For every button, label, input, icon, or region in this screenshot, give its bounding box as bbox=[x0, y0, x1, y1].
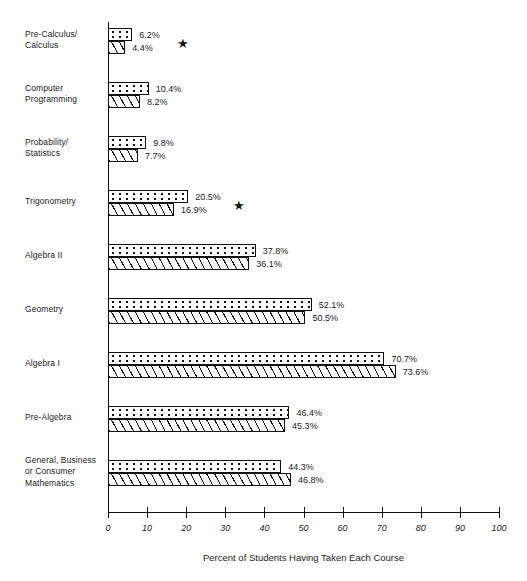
category-label: Algebra II bbox=[25, 250, 62, 262]
bar-value-label: 70.7% bbox=[391, 354, 417, 364]
bar-dotted bbox=[108, 460, 281, 473]
bar-value-label: 36.1% bbox=[256, 259, 282, 269]
bar-value-label: 10.4% bbox=[156, 84, 182, 94]
bar-value-label: 46.4% bbox=[296, 408, 322, 418]
bar-value-label: 16.9% bbox=[181, 205, 207, 215]
x-axis-tick-label: 90 bbox=[455, 523, 465, 533]
bar-hatched bbox=[108, 203, 174, 216]
bar-hatched bbox=[108, 149, 138, 162]
bar-value-label: 73.6% bbox=[403, 367, 429, 377]
category-label: Pre-Calculus/ Calculus bbox=[25, 29, 77, 52]
bar-value-label: 20.5% bbox=[195, 192, 221, 202]
bar-hatched bbox=[108, 95, 140, 108]
bar-hatched bbox=[108, 419, 285, 432]
x-axis-tick bbox=[382, 507, 383, 518]
x-axis-tick-label: 0 bbox=[105, 523, 110, 533]
x-axis-tick bbox=[304, 507, 305, 518]
bar-value-label: 8.2% bbox=[147, 97, 168, 107]
bar-value-label: 50.5% bbox=[312, 313, 338, 323]
x-axis-tick bbox=[460, 507, 461, 518]
annotation-star-icon: ★ bbox=[177, 37, 189, 50]
bar-hatched bbox=[108, 41, 125, 54]
x-axis-tick bbox=[186, 507, 187, 518]
bar-dotted bbox=[108, 82, 149, 95]
bar-value-label: 37.8% bbox=[263, 246, 289, 256]
category-label: Algebra I bbox=[25, 358, 60, 370]
bar-value-label: 7.7% bbox=[145, 151, 166, 161]
x-axis-tick-label: 30 bbox=[220, 523, 230, 533]
x-axis-tick bbox=[343, 507, 344, 518]
bar-value-label: 4.4% bbox=[132, 43, 153, 53]
x-axis-tick bbox=[421, 507, 422, 518]
annotation-star-icon: ★ bbox=[233, 199, 245, 212]
x-axis-tick bbox=[147, 507, 148, 518]
bar-dotted bbox=[108, 244, 256, 257]
bar-value-label: 9.8% bbox=[153, 138, 174, 148]
bar-dotted bbox=[108, 190, 188, 203]
bar-value-label: 45.3% bbox=[292, 421, 318, 431]
x-axis-tick bbox=[499, 507, 500, 518]
category-label: General, Business or Consumer Mathematic… bbox=[25, 455, 96, 490]
category-label: Computer Programming bbox=[25, 83, 77, 106]
bar-value-label: 46.8% bbox=[298, 475, 324, 485]
category-label: Probability/ Statistics bbox=[25, 137, 68, 160]
bar-hatched bbox=[108, 311, 305, 324]
x-axis-tick bbox=[108, 507, 109, 518]
x-axis-tick-label: 40 bbox=[259, 523, 269, 533]
horizontal-bar-chart: Pre-Calculus/ CalculusComputer Programmi… bbox=[0, 0, 527, 581]
x-axis-tick bbox=[264, 507, 265, 518]
bar-dotted bbox=[108, 352, 384, 365]
bar-value-label: 6.2% bbox=[139, 30, 160, 40]
category-label: Geometry bbox=[25, 304, 63, 316]
x-axis-tick-label: 70 bbox=[377, 523, 387, 533]
x-axis-title: Percent of Students Having Taken Each Co… bbox=[203, 552, 404, 564]
bar-dotted bbox=[108, 406, 289, 419]
x-axis-tick-label: 50 bbox=[298, 523, 308, 533]
bar-hatched bbox=[108, 365, 396, 378]
bar-dotted bbox=[108, 298, 312, 311]
bar-hatched bbox=[108, 257, 249, 270]
x-axis-tick-label: 100 bbox=[491, 523, 506, 533]
category-label: Pre-Algebra bbox=[25, 412, 71, 424]
bar-value-label: 52.1% bbox=[319, 300, 345, 310]
bar-dotted bbox=[108, 28, 132, 41]
x-axis-tick-label: 10 bbox=[142, 523, 152, 533]
x-axis-tick-label: 80 bbox=[416, 523, 426, 533]
bar-value-label: 44.3% bbox=[288, 462, 314, 472]
x-axis-tick-label: 60 bbox=[338, 523, 348, 533]
bar-hatched bbox=[108, 473, 291, 486]
category-label: Trigonometry bbox=[25, 196, 76, 208]
x-axis-tick bbox=[225, 507, 226, 518]
x-axis-tick-label: 20 bbox=[181, 523, 191, 533]
bar-dotted bbox=[108, 136, 146, 149]
